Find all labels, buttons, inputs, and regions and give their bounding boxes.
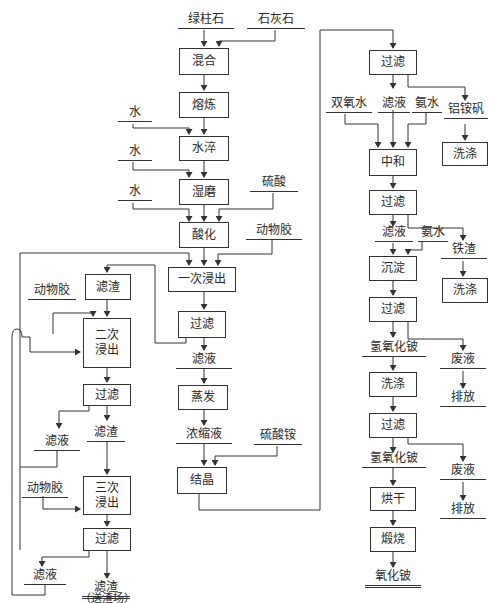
connector-lines [0, 0, 495, 603]
process-filter-7: 过滤 [369, 413, 417, 438]
process-filter-1: 过滤 [178, 311, 226, 338]
process-precipitation: 沉淀 [369, 256, 417, 281]
process-smelting: 熔炼 [179, 92, 229, 118]
stream-filtrate-4: 滤液 [378, 96, 410, 113]
residue-destination-note: （送渣场） [76, 592, 138, 603]
process-second-leach: 二次 浸出 [83, 318, 131, 368]
input-hydrogen-peroxide: 双氧水 [326, 96, 372, 113]
process-filter-4: 过滤 [369, 50, 417, 75]
process-evaporation: 蒸发 [178, 385, 228, 410]
input-ammonium-sulfate: 硫酸铵 [254, 428, 302, 445]
stream-iron-residue: 铁渣 [441, 242, 487, 259]
process-filter-5: 过滤 [369, 190, 417, 215]
input-water-1: 水 [118, 105, 152, 122]
stream-residue-box: 滤渣 [85, 274, 131, 300]
process-wash-alum: 洗涤 [442, 142, 488, 166]
stream-residue-2: 滤渣 [87, 425, 125, 442]
process-acidification: 酸化 [179, 222, 229, 248]
stream-filtrate-2: 滤液 [34, 434, 80, 451]
process-flow-diagram: 绿柱石 石灰石 水 水 水 硫酸 动物胶 动物胶 动物胶 硫酸铵 双氧水 氨水 … [0, 0, 495, 603]
process-calcination: 煅烧 [370, 527, 416, 552]
process-filter-3: 过滤 [83, 528, 131, 551]
input-ammonia-1: 氨水 [412, 96, 442, 113]
product-beryllium-oxide: 氧化铍 [365, 569, 421, 588]
stream-ammonium-alum: 铝铵矾 [444, 102, 488, 119]
process-first-leach: 一次浸出 [168, 267, 236, 292]
stream-waste-liquid-2: 废液 [440, 463, 486, 480]
process-water-quench: 水淬 [179, 136, 229, 161]
stream-concentrate: 浓缩液 [176, 427, 232, 444]
stream-discharge-2: 排放 [440, 502, 486, 519]
stream-beryllium-hydroxide-2: 氢氧化铍 [362, 451, 426, 468]
process-wash-hydroxide: 洗涤 [369, 372, 417, 397]
stream-filtrate-3: 滤液 [24, 568, 66, 585]
stream-discharge-1: 排放 [440, 390, 486, 407]
stream-filtrate-1: 滤液 [176, 352, 232, 369]
input-animal-glue-1: 动物胶 [246, 223, 302, 240]
process-wet-grinding: 湿磨 [179, 179, 229, 205]
input-water-3: 水 [118, 184, 152, 201]
process-crystallization: 结晶 [177, 467, 227, 494]
process-filter-6: 过滤 [369, 297, 417, 322]
stream-beryllium-hydroxide-1: 氢氧化铍 [362, 340, 426, 357]
input-animal-glue-2: 动物胶 [28, 283, 76, 300]
process-filter-2: 过滤 [83, 384, 131, 406]
stream-filtrate-5: 滤液 [375, 225, 413, 242]
input-sulfuric-acid: 硫酸 [250, 175, 298, 192]
input-beryl: 绿柱石 [178, 12, 234, 29]
process-third-leach: 三次 浸出 [83, 476, 131, 515]
process-mixing: 混合 [179, 48, 229, 75]
input-animal-glue-3: 动物胶 [22, 481, 68, 498]
process-wash-iron: 洗涤 [442, 278, 488, 303]
process-neutralization: 中和 [369, 149, 417, 176]
stream-waste-liquid-1: 废液 [440, 352, 486, 369]
process-drying: 烘干 [370, 487, 416, 511]
input-limestone: 石灰石 [247, 12, 305, 29]
input-water-2: 水 [118, 144, 152, 161]
input-ammonia-2: 氨水 [418, 225, 448, 242]
